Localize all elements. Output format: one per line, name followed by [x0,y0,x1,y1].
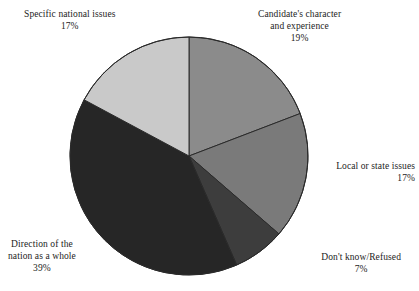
slice-label-value: 17% [24,20,116,32]
slice-label-value: 39% [8,262,76,274]
slice-label-candidates-character-and-experience: Candidate's character and experience 19% [258,8,341,45]
slice-label-direction-of-the-nation-as-a-whole: Direction of the nation as a whole 39% [8,238,76,275]
slice-label-value: 19% [258,32,341,44]
slice-label-local-or-state-issues: Local or state issues 17% [336,160,415,184]
slice-label-text: Specific national issues [24,8,116,20]
slice-label-text-line1: Direction of the [8,238,76,250]
slice-label-text: Don't know/Refused [321,251,401,263]
slice-label-text-line2: and experience [258,20,341,32]
slice-label-specific-national-issues: Specific national issues 17% [24,8,116,32]
slice-label-dont-know-refused: Don't know/Refused 7% [321,251,401,275]
slice-label-text-line1: Candidate's character [258,8,341,20]
slice-label-value: 7% [321,263,401,275]
slice-label-text: Local or state issues [336,160,415,172]
slice-label-value: 17% [336,172,415,184]
pie-chart: Specific national issues 17% Candidate's… [0,0,419,291]
slice-label-text-line2: nation as a whole [8,250,76,262]
